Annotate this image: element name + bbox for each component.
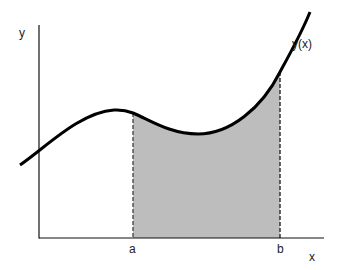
- shaded-area-under-curve: [133, 72, 280, 238]
- upper-bound-label: b: [277, 242, 284, 256]
- x-axis-label: x: [309, 250, 315, 264]
- integral-diagram: y y(x) a b x: [0, 0, 338, 270]
- y-axis-label: y: [19, 26, 25, 40]
- curve-label: y(x): [292, 37, 312, 51]
- lower-bound-label: a: [129, 242, 136, 256]
